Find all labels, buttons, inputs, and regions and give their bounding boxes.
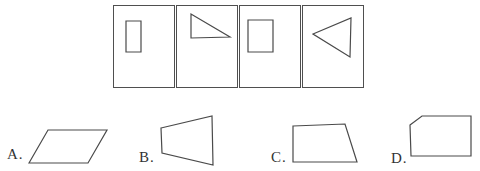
tall-rectangle-shape: [114, 6, 174, 87]
left-triangle-shape: [303, 6, 363, 87]
option-label-b: B.: [139, 150, 155, 165]
right-triangle-shape: [177, 6, 237, 87]
option-a-parallelogram-shape[interactable]: [27, 128, 109, 165]
strip-cell-3: [239, 5, 301, 88]
question-strip: [113, 5, 364, 88]
option-b-quadrilateral-shape[interactable]: [159, 114, 215, 167]
left-triangle-outline: [313, 18, 351, 57]
right-triangle-outline: [191, 14, 230, 38]
trapezoid-outline: [293, 124, 357, 162]
option-label-c: C.: [271, 150, 287, 165]
rectangle-outline: [248, 20, 273, 52]
pentagon-outline: [410, 116, 471, 156]
quadrilateral-outline: [161, 116, 213, 165]
tall-rectangle-outline: [126, 21, 141, 52]
option-c-trapezoid-shape[interactable]: [291, 122, 359, 164]
option-d-pentagon-shape[interactable]: [408, 114, 473, 158]
parallelogram-outline: [29, 130, 107, 163]
rectangle-shape: [240, 6, 300, 87]
test-question-figure: A. B. C. D.: [0, 0, 480, 171]
strip-cell-2: [176, 5, 238, 88]
option-label-d: D.: [391, 151, 408, 166]
strip-cell-4: [302, 5, 364, 88]
option-label-a: A.: [7, 147, 24, 162]
strip-cell-1: [113, 5, 175, 88]
